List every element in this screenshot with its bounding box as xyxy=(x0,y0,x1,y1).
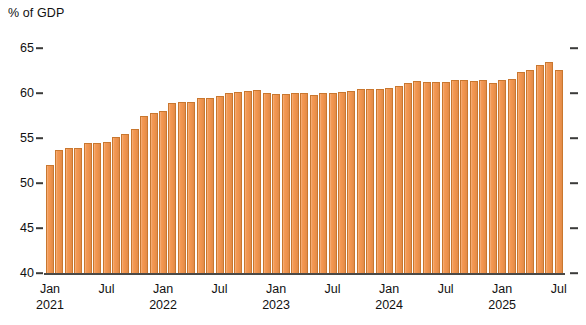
bar xyxy=(451,80,459,273)
x-tick-year: 2023 xyxy=(262,297,290,313)
bar xyxy=(187,102,195,273)
bar xyxy=(216,96,224,273)
y-tick-label: 60 xyxy=(4,86,34,100)
chart-container: % of GDP 404550556065 Jan2021JulJan2022J… xyxy=(0,0,586,325)
x-tick-label: Jan2021 xyxy=(36,282,64,313)
bar xyxy=(517,72,525,273)
bar xyxy=(545,62,553,273)
x-tick-label: Jul xyxy=(551,282,567,297)
bar xyxy=(140,116,148,273)
bar xyxy=(55,150,63,273)
x-tick-month: Jul xyxy=(325,282,341,297)
bar xyxy=(526,70,534,273)
plot-area xyxy=(46,48,564,273)
x-tick-month: Jan xyxy=(149,282,177,297)
bar xyxy=(131,129,139,273)
bar xyxy=(263,93,271,273)
bar xyxy=(121,134,129,273)
y-tick-mark-right xyxy=(570,137,578,139)
bar xyxy=(178,102,186,273)
x-tick-month: Jan xyxy=(375,282,403,297)
y-tick-mark-right xyxy=(570,92,578,94)
bar xyxy=(347,91,355,273)
x-tick-label: Jan2022 xyxy=(149,282,177,313)
bar xyxy=(46,165,54,273)
y-tick-mark-right xyxy=(570,47,578,49)
y-tick-mark-left xyxy=(36,92,43,94)
x-tick-label: Jan2024 xyxy=(375,282,403,313)
bar xyxy=(225,93,233,273)
bar xyxy=(338,92,346,273)
y-tick-mark-left xyxy=(36,137,43,139)
bar xyxy=(479,80,487,273)
y-tick-mark-left xyxy=(36,182,43,184)
y-tick-label: 55 xyxy=(4,131,34,145)
bar xyxy=(508,79,516,273)
bar xyxy=(112,137,120,273)
bar xyxy=(300,93,308,273)
bar xyxy=(319,93,327,273)
x-tick-month: Jul xyxy=(438,282,454,297)
x-tick-year: 2025 xyxy=(488,297,516,313)
bar xyxy=(555,70,563,273)
y-tick-label: 65 xyxy=(4,41,34,55)
y-tick-mark-left xyxy=(36,227,43,229)
y-tick-label: 50 xyxy=(4,176,34,190)
y-axis-title: % of GDP xyxy=(8,6,64,20)
bar xyxy=(74,148,82,273)
bar xyxy=(357,89,365,273)
bar xyxy=(150,113,158,273)
bar xyxy=(282,94,290,273)
bar xyxy=(197,98,205,273)
bar xyxy=(413,81,421,273)
y-tick-mark-left xyxy=(36,47,43,49)
bar xyxy=(470,81,478,273)
bar xyxy=(536,65,544,273)
bar xyxy=(329,93,337,273)
x-tick-year: 2021 xyxy=(36,297,64,313)
bar xyxy=(272,94,280,273)
bar xyxy=(423,82,431,273)
x-tick-month: Jan xyxy=(488,282,516,297)
bar xyxy=(206,98,214,273)
bar xyxy=(310,95,318,273)
bar xyxy=(244,91,252,273)
y-tick-label: 40 xyxy=(4,266,34,280)
x-tick-month: Jan xyxy=(262,282,290,297)
bar xyxy=(159,111,167,273)
x-tick-label: Jan2023 xyxy=(262,282,290,313)
x-tick-month: Jul xyxy=(551,282,567,297)
x-tick-label: Jul xyxy=(325,282,341,297)
bar xyxy=(234,92,242,273)
y-tick-mark-right xyxy=(570,272,578,274)
bar xyxy=(489,83,497,273)
bar xyxy=(432,82,440,273)
x-tick-label: Jan2025 xyxy=(488,282,516,313)
bar xyxy=(103,142,111,273)
bar xyxy=(65,148,73,273)
bar xyxy=(376,89,384,274)
x-tick-month: Jul xyxy=(212,282,228,297)
bar xyxy=(366,89,374,274)
bar xyxy=(84,143,92,273)
x-tick-year: 2024 xyxy=(375,297,403,313)
bar xyxy=(442,82,450,273)
y-tick-mark-right xyxy=(570,227,578,229)
x-axis-line xyxy=(44,273,565,275)
bar xyxy=(385,88,393,273)
x-tick-label: Jul xyxy=(99,282,115,297)
x-tick-month: Jul xyxy=(99,282,115,297)
bar xyxy=(460,80,468,273)
y-tick-mark-right xyxy=(570,182,578,184)
x-tick-year: 2022 xyxy=(149,297,177,313)
x-tick-month: Jan xyxy=(36,282,64,297)
y-tick-label: 45 xyxy=(4,221,34,235)
y-tick-mark-left xyxy=(36,272,43,274)
bar xyxy=(498,80,506,274)
x-tick-label: Jul xyxy=(212,282,228,297)
bar xyxy=(395,86,403,273)
bar xyxy=(404,83,412,273)
bar xyxy=(291,93,299,273)
bar xyxy=(253,90,261,273)
bar xyxy=(168,103,176,273)
